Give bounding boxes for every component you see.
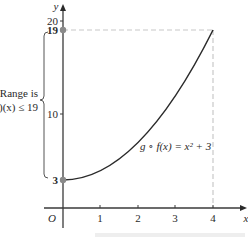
range-annotation-line1: Range is	[0, 87, 38, 99]
endpoint-max	[60, 27, 66, 33]
x-tick-label-4: 4	[210, 212, 216, 224]
x-axis-label: x	[243, 212, 248, 224]
y-axis-label: y	[53, 0, 59, 12]
origin-label: O	[48, 212, 56, 224]
x-axis-arrow-icon	[240, 205, 247, 211]
y-highlight-label-19: 19	[47, 24, 59, 36]
range-brace	[40, 32, 48, 178]
x-tick-label-1: 1	[97, 212, 103, 224]
x-tick-label-3: 3	[172, 212, 178, 224]
range-annotation-line2: )(x) ≤ 19	[0, 101, 38, 114]
y-highlight-label-3: 3	[53, 174, 59, 186]
endpoint-min	[60, 177, 66, 183]
function-graph: 1 2 3 4 O 10 20 19 3 y x Range is )(x) ≤…	[0, 0, 248, 240]
function-curve	[63, 30, 213, 180]
y-axis-arrow-icon	[60, 4, 66, 11]
x-tick-label-2: 2	[135, 212, 141, 224]
faint-footer-text	[95, 233, 245, 237]
function-label: g ∘ f(x) = x² + 3	[140, 140, 212, 153]
y-tick-label-10: 10	[47, 108, 59, 120]
